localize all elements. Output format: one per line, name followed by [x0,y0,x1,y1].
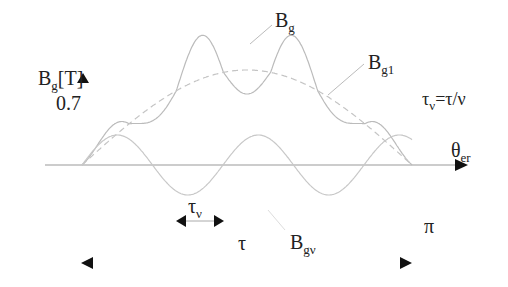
tau-label: τ [238,233,246,253]
tau-left-arrow-icon [81,257,93,269]
bgv-leader-line [268,210,285,230]
formula-label: τν=τ/ν [422,90,466,108]
y-value-label: 0.7 [56,93,81,113]
bgv-label: Bgν [290,232,316,252]
tau-v-left-arrow-icon [176,215,186,227]
tau-v-label: τν [188,196,202,216]
bg-curve [82,35,412,165]
bg-leader-line [250,25,272,44]
tau-v-right-arrow-icon [214,215,224,227]
theta-axis-label: θer [451,140,471,160]
diagram: Bg[T] 0.7 Bg Bg1 τν=τ/ν θer τν τ Bgν π [0,0,508,287]
bg1-label: Bg1 [368,52,394,72]
y-axis-label: Bg[T] [38,68,83,88]
bg1-curve [82,70,412,165]
tau-right-arrow-icon [400,257,412,269]
bg-label: Bg [275,10,295,30]
diagram-graphics [0,0,508,287]
bg1-leader-line [328,64,364,95]
pi-label: π [424,216,434,236]
